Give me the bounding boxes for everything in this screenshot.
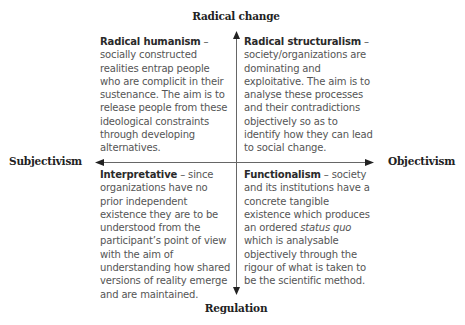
axis-label-objectivism: Objectivism: [388, 155, 455, 167]
quadrant-description: society/organizations are dominating and…: [244, 49, 373, 153]
quadrant-radical-structuralism: Radical structuralism – society/organiza…: [244, 35, 374, 155]
quadrant-radical-humanism: Radical humanism – socially constructed …: [100, 35, 230, 155]
separator: –: [201, 36, 209, 47]
separator: –: [361, 36, 369, 47]
arrow-up-icon: [233, 31, 240, 39]
axis-label-radical-change: Radical change: [192, 10, 280, 22]
quadrant-description: since organizations have no prior indepe…: [100, 169, 230, 300]
arrow-right-icon: [365, 159, 374, 166]
quadrant-title: Functionalism: [244, 169, 321, 180]
quadrant-functionalism: Functionalism – society and its institut…: [244, 168, 376, 288]
separator: –: [321, 169, 332, 180]
arrow-left-icon: [95, 159, 104, 166]
arrow-down-icon: [233, 287, 240, 295]
quadrant-title: Radical structuralism: [244, 36, 361, 47]
separator: –: [177, 169, 188, 180]
quadrant-description-italic: status quo: [300, 222, 351, 233]
quadrant-title: Radical humanism: [100, 36, 201, 47]
quadrant-title: Interpretative: [100, 169, 177, 180]
quadrant-description: socially constructed realities entrap pe…: [100, 49, 227, 153]
quadrant-interpretative: Interpretative – since organizations hav…: [100, 168, 232, 301]
axis-label-subjectivism: Subjectivism: [9, 155, 82, 167]
quadrant-description: which is analysable objectively through …: [244, 235, 366, 286]
axis-label-regulation: Regulation: [205, 302, 268, 314]
